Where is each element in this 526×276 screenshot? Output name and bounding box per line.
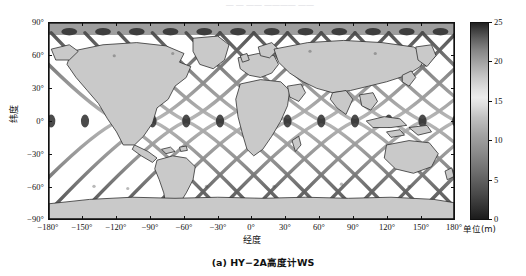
- colorbar-tick-label: 5: [494, 175, 498, 185]
- ytick-mark: [48, 55, 52, 56]
- colorbar-tick-label: 10: [494, 135, 503, 145]
- colorbar-tick-label: 15: [494, 96, 503, 106]
- ytick-mark: [48, 121, 52, 122]
- xtick-mark-bottom: [353, 216, 354, 220]
- ytick-mark: [48, 219, 52, 220]
- ytick-mark-right: [451, 219, 455, 220]
- x-axis-title: 经度: [48, 234, 455, 246]
- xtick-mark-bottom: [116, 216, 117, 220]
- colorbar-tick-label: 25: [494, 17, 503, 27]
- xtick-mark-bottom: [251, 216, 252, 220]
- ytick-label: −90°: [8, 214, 44, 224]
- xtick-mark: [184, 22, 185, 26]
- xtick-mark: [421, 22, 422, 26]
- xtick-mark: [218, 22, 219, 26]
- colorbar-tick: [489, 22, 492, 23]
- xtick-mark: [387, 22, 388, 26]
- xtick-mark-bottom: [218, 216, 219, 220]
- xtick-mark-bottom: [387, 216, 388, 220]
- ytick-mark: [48, 22, 52, 23]
- map-axes: [48, 22, 455, 220]
- colorbar-tick: [489, 140, 492, 141]
- figure-hy2a-altimeter-ws: — — —— ———— ——: [0, 0, 526, 276]
- figure-caption: (a) HY−2A高度计WS: [0, 256, 526, 269]
- colorbar-tick: [489, 180, 492, 181]
- ytick-label: −30°: [8, 149, 44, 159]
- colorbar-tick: [489, 219, 492, 220]
- ytick-mark-right: [451, 121, 455, 122]
- colorbar: [470, 22, 489, 220]
- ytick-mark: [48, 154, 52, 155]
- ytick-mark-right: [451, 187, 455, 188]
- y-axis-title: 纬度: [9, 84, 20, 144]
- ytick-mark-right: [451, 22, 455, 23]
- xtick-mark: [82, 22, 83, 26]
- xtick-mark-bottom: [184, 216, 185, 220]
- xtick-mark-bottom: [319, 216, 320, 220]
- xtick-mark: [353, 22, 354, 26]
- colorbar-title: 单位(m): [463, 224, 525, 235]
- colorbar-tick-label: 0: [494, 214, 498, 224]
- xtick-mark: [116, 22, 117, 26]
- ytick-mark: [48, 88, 52, 89]
- colorbar-tick-label: 20: [494, 56, 503, 66]
- xtick-mark-bottom: [421, 216, 422, 220]
- xtick-mark: [251, 22, 252, 26]
- xtick-mark: [319, 22, 320, 26]
- xtick-mark-bottom: [285, 216, 286, 220]
- map-canvas: [49, 23, 454, 219]
- xtick-mark: [150, 22, 151, 26]
- xtick-mark: [285, 22, 286, 26]
- ytick-label: 60°: [8, 50, 44, 60]
- colorbar-tick: [489, 61, 492, 62]
- colorbar-tick: [489, 101, 492, 102]
- header-faint-text: — — —— ———— ——: [120, 0, 420, 9]
- ytick-label: −60°: [8, 182, 44, 192]
- xtick-mark-bottom: [82, 216, 83, 220]
- xtick-mark-bottom: [150, 216, 151, 220]
- ytick-mark-right: [451, 88, 455, 89]
- world-map-svg: [49, 23, 454, 219]
- ytick-mark-right: [451, 154, 455, 155]
- ytick-mark: [48, 187, 52, 188]
- ytick-label: 90°: [8, 17, 44, 27]
- ytick-mark-right: [451, 55, 455, 56]
